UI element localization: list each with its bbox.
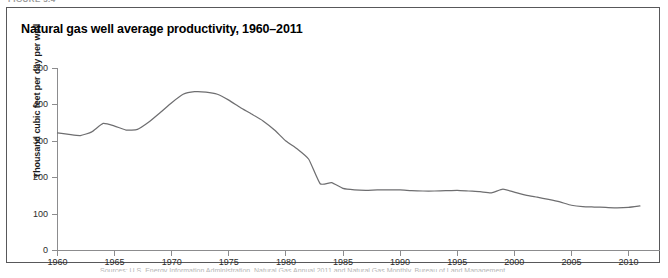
source-note: Sources: U.S. Energy Information Adminis… <box>100 266 640 272</box>
x-tick-label: 1960 <box>38 258 78 267</box>
figure-title: Natural gas well average productivity, 1… <box>21 22 303 36</box>
figure-container: Natural gas well average productivity, 1… <box>6 7 660 263</box>
y-tick-label: 300 <box>18 137 48 146</box>
figure-page: FIGURE 3.4 Natural gas well average prod… <box>0 0 668 278</box>
y-tick-label: 100 <box>18 210 48 219</box>
running-head: FIGURE 3.4 <box>8 0 338 4</box>
y-tick-label: 0 <box>18 246 48 255</box>
y-tick-label: 200 <box>18 173 48 182</box>
y-tick-label: 400 <box>18 100 48 109</box>
y-tick-label: 500 <box>18 64 48 73</box>
